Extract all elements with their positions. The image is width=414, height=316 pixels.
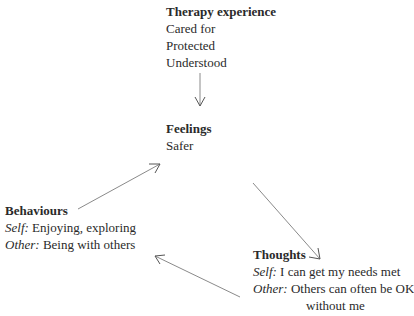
arrow-behaviours-to-feelings bbox=[78, 164, 160, 209]
arrow-feelings-to-thoughts bbox=[253, 183, 320, 259]
arrow-thoughts-to-behaviours bbox=[155, 255, 240, 297]
arrow-therapy-to-feelings bbox=[195, 73, 205, 106]
